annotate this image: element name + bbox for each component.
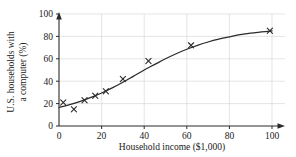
- y-tick-label: 40: [44, 77, 54, 87]
- x-axis-arrow-icon: [278, 123, 286, 129]
- y-tick-label: 0: [48, 121, 53, 131]
- x-tick-label: 80: [225, 131, 235, 141]
- y-axis-arrow-icon: [56, 12, 62, 20]
- chart-plot-area: 020406080100 020406080100 Household inco…: [0, 0, 296, 157]
- x-tick-label: 60: [182, 131, 192, 141]
- y-axis-title-line1: U.S. households with: [6, 31, 16, 113]
- y-axis-title-line2: a computer (%): [18, 42, 29, 101]
- x-tick-label: 100: [265, 131, 280, 141]
- data-point-x-icon: [120, 76, 125, 81]
- y-tick-label: 60: [44, 54, 54, 64]
- chart-figure: 020406080100 020406080100 Household inco…: [0, 0, 296, 157]
- data-point-markers: [61, 28, 273, 112]
- data-point-x-icon: [71, 107, 76, 112]
- y-tick-label: 80: [44, 32, 54, 42]
- y-tick-label: 20: [44, 99, 54, 109]
- data-point-x-icon: [93, 93, 98, 98]
- data-point-x-icon: [61, 100, 66, 105]
- y-tick-label: 100: [39, 9, 54, 19]
- x-axis-title: Household income ($1,000): [119, 142, 225, 153]
- data-point-x-icon: [146, 58, 151, 63]
- x-tick-labels: 020406080100: [57, 131, 280, 141]
- axis-lines: [56, 12, 285, 129]
- x-tick-label: 40: [139, 131, 149, 141]
- x-tick-label: 0: [57, 131, 62, 141]
- x-tick-label: 20: [97, 131, 107, 141]
- fit-curve: [59, 31, 272, 108]
- grid-vertical: [102, 14, 272, 126]
- grid-horizontal: [59, 14, 285, 104]
- y-tick-labels: 020406080100: [39, 9, 54, 131]
